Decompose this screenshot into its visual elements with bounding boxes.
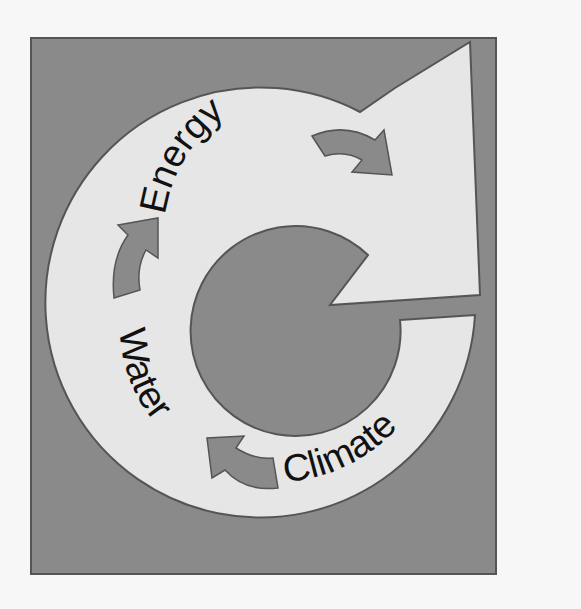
- cycle-diagram: Energy Water Climate: [0, 0, 581, 609]
